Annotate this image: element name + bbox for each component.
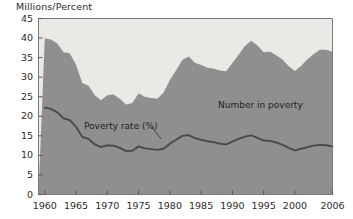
- y-axis-title: Millions/Percent: [16, 1, 92, 12]
- y-tick-20: 20: [13, 110, 33, 121]
- x-tick-2006: 2006: [318, 200, 348, 211]
- x-tick-1960: 1960: [30, 200, 60, 211]
- x-tick-1980: 1980: [155, 200, 185, 211]
- y-tick-5: 5: [13, 169, 33, 180]
- y-tick-15: 15: [13, 130, 33, 141]
- y-tick-25: 25: [13, 91, 33, 102]
- x-tick-1975: 1975: [124, 200, 154, 211]
- x-tick-1990: 1990: [217, 200, 247, 211]
- y-tick-30: 30: [13, 71, 33, 82]
- x-tick-1965: 1965: [61, 200, 91, 211]
- x-tick-2000: 2000: [280, 200, 310, 211]
- y-tick-10: 10: [13, 149, 33, 160]
- y-tick-35: 35: [13, 52, 33, 63]
- x-tick-1985: 1985: [186, 200, 216, 211]
- y-tick-0: 0: [13, 189, 33, 200]
- y-tick-40: 40: [13, 32, 33, 43]
- x-tick-1995: 1995: [249, 200, 279, 211]
- poverty-chart: Millions/Percent 051015202530354045 1960…: [0, 0, 353, 219]
- y-tick-45: 45: [13, 13, 33, 24]
- annotation-number-in-poverty: Number in poverty: [218, 100, 303, 110]
- x-tick-1970: 1970: [92, 200, 122, 211]
- annotation-poverty-rate: Poverty rate (%): [84, 121, 158, 131]
